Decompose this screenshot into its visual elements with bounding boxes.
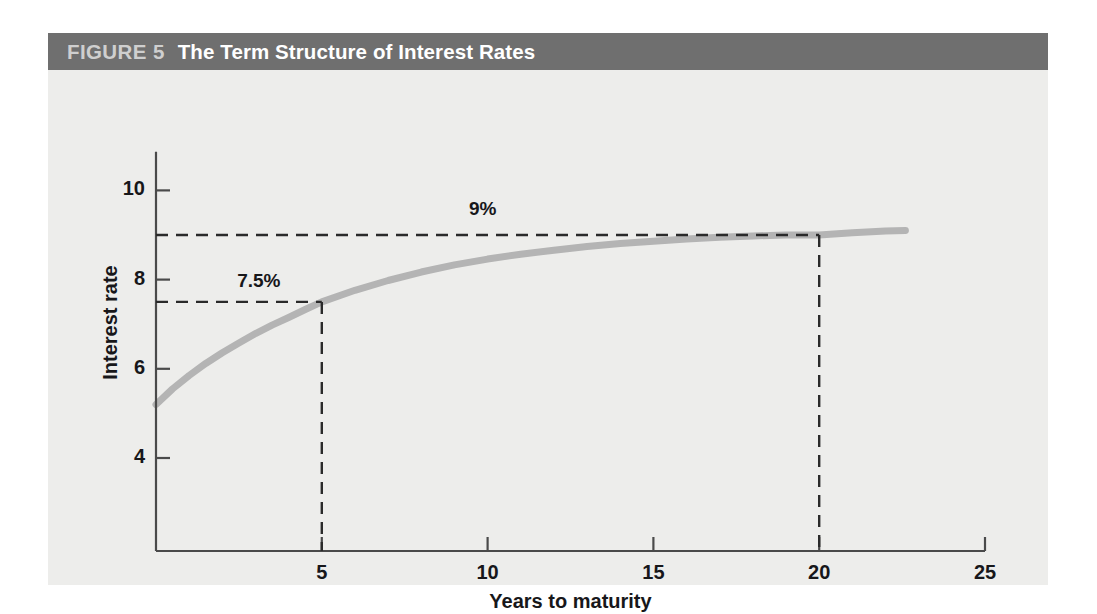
- y-axis-tick-label: 8: [134, 267, 145, 290]
- x-axis-tick-label: 10: [448, 561, 528, 584]
- y-axis-tick-label: 6: [134, 356, 145, 379]
- yield-curve-group: [156, 231, 905, 405]
- x-axis-title: Years to maturity: [421, 590, 721, 613]
- chart-plot-area: 468105101520257.5%9%Interest rateYears t…: [48, 70, 1048, 585]
- x-axis-tick-label: 15: [613, 561, 693, 584]
- chart-svg: [48, 70, 1048, 585]
- y-axis-title: Interest rate: [99, 253, 122, 393]
- figure-title: The Term Structure of Interest Rates: [178, 40, 536, 64]
- yield-curve-line: [156, 231, 905, 405]
- x-axis-tick-label: 5: [282, 561, 362, 584]
- figure-panel: FIGURE 5 The Term Structure of Interest …: [48, 33, 1048, 585]
- x-axis-tick-label: 20: [779, 561, 859, 584]
- annotation-label: 7.5%: [209, 270, 309, 292]
- figure-title-bar: FIGURE 5 The Term Structure of Interest …: [48, 33, 1048, 70]
- annotation-label: 9%: [433, 198, 533, 220]
- y-axis-tick-label: 4: [134, 445, 145, 468]
- chart-axes-group: [156, 152, 985, 551]
- x-axis-tick-label: 25: [945, 561, 1025, 584]
- figure-number-label: FIGURE 5: [67, 40, 165, 64]
- y-axis-tick-label: 10: [123, 177, 145, 200]
